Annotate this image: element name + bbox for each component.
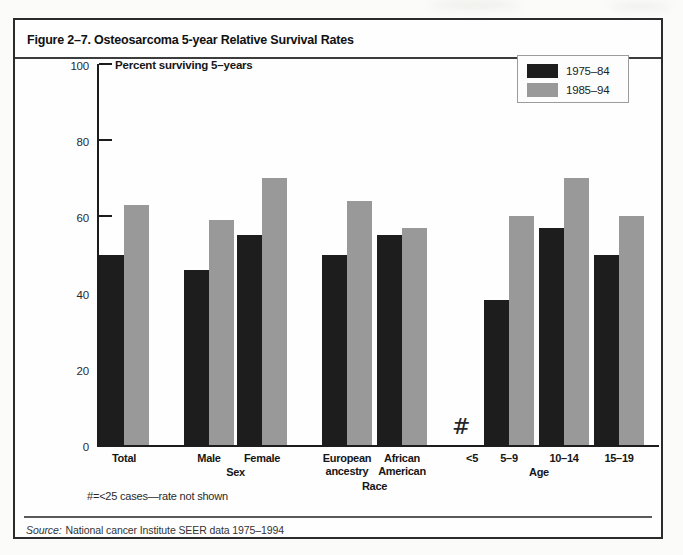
scan-smudge: [610, 4, 670, 9]
scan-smudge: [430, 2, 520, 8]
bar-group-15-19: [594, 216, 644, 445]
bar-european-ancestry-1985-94: [347, 201, 372, 445]
category-label-female: Female: [217, 452, 307, 465]
source-label: Source:: [26, 524, 62, 536]
source-divider: [24, 516, 652, 518]
y-tick-label-100: 100: [53, 60, 89, 72]
bar-5-9-1975-84: [484, 300, 509, 445]
bar-group-african-american: [377, 228, 427, 445]
y-tick-label-80: 80: [53, 136, 89, 148]
bar-group-total: [99, 205, 149, 445]
footnote: #=<25 cases—rate not shown: [87, 490, 228, 502]
category-label-total: Total: [79, 452, 169, 465]
bar-group-10-14: [539, 178, 589, 445]
y-tick-100: [99, 63, 112, 65]
y-tick-label-40: 40: [53, 289, 89, 301]
bar-male-1975-84: [184, 270, 209, 445]
bar-5-9-1985-94: [509, 216, 534, 445]
bar-female-1975-84: [237, 235, 262, 445]
y-tick-label-60: 60: [53, 212, 89, 224]
bar-group-5-9: [484, 216, 534, 445]
y-tick-80: [99, 139, 112, 141]
bar-total-1975-84: [99, 255, 124, 446]
y-tick-label-20: 20: [53, 365, 89, 377]
y-axis-title: Percent surviving 5–years: [115, 59, 253, 71]
bar-african-american-1985-94: [402, 228, 427, 445]
source-line: Source:National cancer Institute SEER da…: [26, 524, 284, 536]
bar-male-1985-94: [209, 220, 234, 445]
source-text: National cancer Institute SEER data 1975…: [66, 524, 284, 536]
axis-group-label-sex: Sex: [191, 466, 281, 478]
axis-group-label-race: Race: [330, 480, 420, 492]
bar-10-14-1975-84: [539, 228, 564, 445]
figure-box: Figure 2–7. Osteosarcoma 5-year Relative…: [13, 18, 663, 539]
bar-total-1985-94: [124, 205, 149, 445]
bar-15-19-1975-84: [594, 255, 619, 446]
bar-african-american-1975-84: [377, 235, 402, 445]
bar-european-ancestry-1975-84: [322, 255, 347, 446]
bar-female-1985-94: [262, 178, 287, 445]
bar-10-14-1985-94: [564, 178, 589, 445]
bar-15-19-1985-94: [619, 216, 644, 445]
bar-group-european-ancestry: [322, 201, 372, 445]
suppressed-data-marker: #: [452, 416, 470, 438]
bar-group-male: [184, 220, 234, 445]
figure-title: Figure 2–7. Osteosarcoma 5-year Relative…: [27, 33, 354, 47]
axis-group-label-age: Age: [494, 466, 584, 478]
plot-area: Percent surviving 5–years 020406080100To…: [97, 64, 659, 447]
category-label-15-19: 15–19: [574, 452, 664, 465]
bar-group-female: [237, 178, 287, 445]
